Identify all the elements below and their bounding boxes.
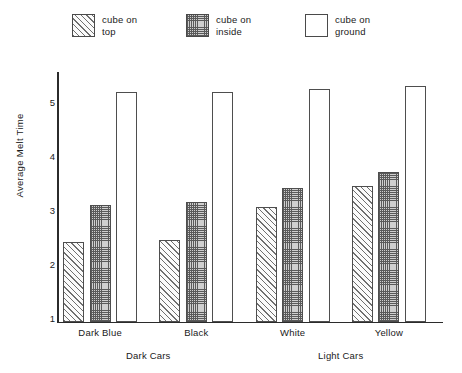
bar-yellow-series-0 (352, 186, 373, 322)
bar-dark-blue-series-1 (90, 205, 111, 322)
group-label-dark-cars: Dark Cars (126, 350, 171, 361)
bar-white-series-1 (282, 188, 303, 321)
bar-yellow-series-1 (378, 172, 399, 321)
group-label-light-cars: Light Cars (318, 350, 363, 361)
bars-area (58, 70, 443, 322)
y-axis-tick-5: 5 (44, 97, 55, 108)
x-axis-line (57, 322, 443, 324)
bar-chart: Average Melt Time 12345 Dark BlueBlackWh… (0, 0, 462, 373)
bar-black-series-2 (212, 92, 233, 322)
bar-dark-blue-series-2 (116, 92, 137, 322)
y-axis-tick-4: 4 (44, 151, 55, 162)
category-label-dark-blue: Dark Blue (78, 327, 122, 338)
bar-yellow-series-2 (405, 86, 426, 321)
y-axis-tick-2: 2 (44, 258, 55, 269)
y-axis-tick-3: 3 (44, 205, 55, 216)
bar-white-series-2 (309, 89, 330, 322)
bar-white-series-0 (256, 207, 277, 321)
category-label-yellow: Yellow (375, 327, 403, 338)
bar-dark-blue-series-0 (63, 242, 84, 321)
y-axis-title: Average Melt Time (14, 81, 25, 231)
y-axis-tick-1: 1 (44, 312, 55, 323)
category-label-black: Black (184, 327, 208, 338)
bar-black-series-1 (186, 202, 207, 322)
category-label-white: White (280, 327, 305, 338)
bar-black-series-0 (159, 240, 180, 322)
